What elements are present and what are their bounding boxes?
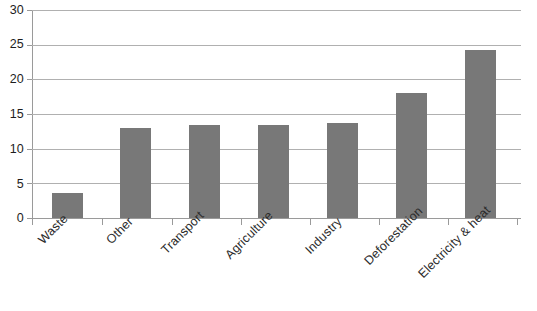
bar-other[interactable]: [120, 128, 151, 218]
x-tick-mark-5: [379, 219, 380, 225]
x-tick-mark-7: [517, 219, 518, 225]
y-tick-label-20: 20: [0, 73, 24, 86]
y-axis-tick-labels: 30 25 20 15 10 5 0: [0, 0, 24, 311]
bar-agriculture[interactable]: [258, 125, 289, 218]
x-tick-mark-0: [32, 219, 33, 225]
x-label-other: Other: [104, 215, 135, 246]
x-tick-mark-4: [310, 219, 311, 225]
bar-transport[interactable]: [189, 125, 220, 218]
bar-chart: 30 25 20 15 10 5 0: [0, 0, 537, 311]
bar-deforestation[interactable]: [396, 93, 427, 218]
x-tick-mark-1: [102, 219, 103, 225]
bar-electricity-heat[interactable]: [465, 50, 496, 218]
y-tick-label-0: 0: [0, 212, 24, 225]
x-tick-mark-6: [448, 219, 449, 225]
y-tick-label-25: 25: [0, 38, 24, 51]
x-tick-mark-3: [241, 219, 242, 225]
y-tick-label-15: 15: [0, 108, 24, 121]
bars-layer: [32, 10, 521, 218]
y-tick-label-10: 10: [0, 143, 24, 156]
x-tick-mark-2: [172, 219, 173, 225]
y-tick-label-5: 5: [0, 178, 24, 191]
bar-industry[interactable]: [327, 123, 358, 218]
y-tick-label-30: 30: [0, 4, 24, 17]
